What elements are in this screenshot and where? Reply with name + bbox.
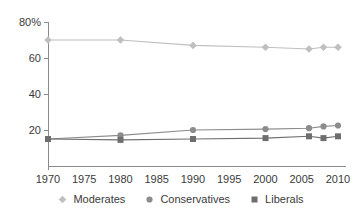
legend-item-label: Liberals — [265, 193, 304, 205]
legend-item[interactable]: Conservatives — [144, 193, 230, 205]
data-point-marker — [335, 133, 341, 139]
data-point-marker — [117, 36, 125, 44]
x-tick-label: 1985 — [145, 173, 169, 185]
x-tick-label: 1990 — [181, 173, 205, 185]
y-axis-tick-labels: 20406080% — [19, 16, 41, 136]
legend-item[interactable]: Moderates — [57, 193, 125, 205]
chart-legend: ModeratesConservativesLiberals — [0, 193, 361, 205]
data-point-marker — [189, 42, 197, 50]
legend-item-label: Conservatives — [160, 193, 230, 205]
data-point-marker — [320, 123, 326, 129]
x-tick-label: 1980 — [108, 173, 132, 185]
y-tick-label: 80% — [19, 16, 41, 28]
data-point-marker — [263, 135, 269, 141]
x-tick-label: 2010 — [326, 173, 350, 185]
y-tick-label: 60 — [29, 52, 41, 64]
data-point-marker — [320, 43, 328, 51]
chart-plot-area: 20406080% 197019751980198519901995200020… — [0, 0, 361, 223]
chart-series-layer — [44, 36, 342, 143]
chart-series — [45, 133, 341, 143]
data-point-marker — [118, 137, 124, 143]
data-point-marker — [334, 43, 342, 51]
data-point-marker — [190, 136, 196, 142]
data-point-marker — [44, 36, 52, 44]
x-tick-label: 2005 — [290, 173, 314, 185]
y-tick-label: 40 — [29, 88, 41, 100]
x-tick-label: 2000 — [253, 173, 277, 185]
x-tick-label: 1970 — [36, 173, 60, 185]
legend-circle-icon — [144, 194, 155, 205]
legend-item-label: Moderates — [73, 193, 125, 205]
data-point-marker — [306, 125, 312, 131]
data-point-marker — [262, 126, 268, 132]
legend-square-icon — [249, 194, 260, 205]
data-point-marker — [190, 127, 196, 133]
legend-item[interactable]: Liberals — [249, 193, 304, 205]
data-point-marker — [262, 43, 270, 51]
x-axis-tick-labels: 197019751980198519901995200020052010 — [36, 173, 350, 185]
data-point-marker — [305, 45, 313, 53]
legend-diamond-icon — [57, 194, 68, 205]
line-chart: 20406080% 197019751980198519901995200020… — [0, 0, 361, 223]
data-point-marker — [45, 136, 51, 142]
data-point-marker — [335, 122, 341, 128]
y-tick-label: 20 — [29, 124, 41, 136]
data-point-marker — [321, 135, 327, 141]
data-point-marker — [306, 133, 312, 139]
x-tick-label: 1975 — [72, 173, 96, 185]
chart-series — [44, 36, 342, 53]
x-tick-label: 1995 — [217, 173, 241, 185]
